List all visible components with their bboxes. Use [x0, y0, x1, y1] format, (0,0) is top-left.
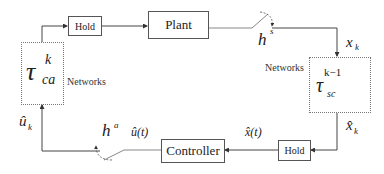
signal-xk-base: x: [346, 34, 353, 51]
signal-xhat-t: x̂(t): [245, 125, 262, 140]
network-sc-box: τ k−1 sc: [309, 57, 371, 113]
hold-block-bottom: Hold: [278, 140, 311, 161]
network-ca-box: τ k ca: [21, 42, 64, 105]
sampler-ha-base: h: [102, 121, 111, 141]
signal-uhat-t: û(t): [131, 125, 148, 140]
signal-xhatk-sub: k: [354, 126, 358, 136]
hold-block-top: Hold: [68, 16, 102, 36]
sampler-hs-sup: s: [270, 26, 274, 36]
tau-sc-symbol: τ: [316, 74, 323, 97]
hold-top-label: Hold: [75, 21, 95, 32]
network-right-label: Networks: [265, 62, 304, 73]
signal-uhatk-sub: k: [28, 122, 32, 132]
sampler-ha-sup: a: [114, 120, 119, 130]
signal-xk-sub: k: [355, 42, 359, 52]
signal-xhatk-base: x̂: [346, 117, 353, 134]
controller-block: Controller: [161, 139, 225, 163]
controller-label: Controller: [166, 143, 219, 159]
sampler-hs-base: h: [258, 30, 267, 50]
tau-sc-sup: k−1: [324, 66, 341, 78]
tau-ca-sup: k: [45, 52, 51, 68]
tau-ca-sub: ca: [42, 72, 55, 88]
plant-block: Plant: [148, 11, 209, 39]
signal-uhatk-base: û: [19, 113, 27, 130]
plant-label: Plant: [165, 17, 192, 33]
tau-sc-sub: sc: [327, 88, 335, 99]
network-left-label: Networks: [67, 76, 106, 87]
tau-ca-symbol: τ: [26, 57, 35, 87]
hold-bottom-label: Hold: [285, 145, 305, 156]
